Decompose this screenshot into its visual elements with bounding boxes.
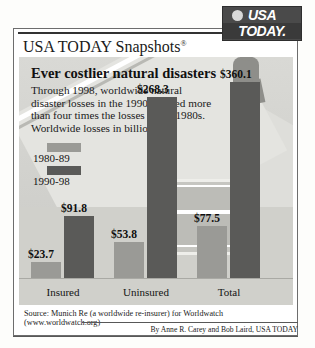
masthead-title-text: USA TODAY Snapshots <box>23 38 180 55</box>
byline-rule-bottom <box>13 336 298 337</box>
bar-360.1 <box>230 82 260 278</box>
bar-268.3 <box>147 97 177 278</box>
category-label-total: Total <box>195 286 263 298</box>
legend-item-1990-98: 1990-98 <box>33 166 81 188</box>
legend-label-1980-89: 1980-89 <box>33 152 81 165</box>
bar-value-label: $268.3 <box>137 83 169 95</box>
infographic-panel: USA TODAY Snapshots® Ever costlier natur… <box>13 28 298 336</box>
bar-value-label: $360.1 <box>220 68 252 80</box>
bar-value-label: $77.5 <box>194 212 220 224</box>
masthead-title: USA TODAY Snapshots® <box>23 38 186 56</box>
byline: By Anne R. Carey and Bob Laird, USA TODA… <box>82 325 298 334</box>
legend-swatch-1990-98 <box>47 166 81 175</box>
bar-value-label: $53.8 <box>111 228 137 240</box>
bar-value-label: $91.8 <box>61 202 87 214</box>
category-label-uninsured: Uninsured <box>111 286 181 298</box>
chart-legend: 1980-891990-98 <box>33 143 81 189</box>
usa-today-logo: USA TODAY. <box>222 6 302 41</box>
legend-swatch-1980-89 <box>47 143 81 152</box>
registered-trademark-mark: ® <box>180 39 186 48</box>
legend-item-1980-89: 1980-89 <box>33 143 81 165</box>
category-label-insured: Insured <box>29 286 97 298</box>
bar-77.5 <box>197 226 227 278</box>
logo-line-usa: USA <box>223 8 301 23</box>
legend-label-1990-98: 1990-98 <box>33 175 81 188</box>
snapshot-page: USA TODAY. USA TODAY Snapshots® Ever cos… <box>0 0 315 348</box>
bar-23.7 <box>31 262 61 278</box>
bar-value-label: $23.7 <box>28 248 54 260</box>
bar-53.8 <box>114 242 144 278</box>
byline-rule-top <box>82 322 298 323</box>
chart-card: Ever costlier natural disasters Through … <box>19 57 293 305</box>
logo-line-today: TODAY. <box>223 23 301 39</box>
bar-91.8 <box>64 216 94 278</box>
